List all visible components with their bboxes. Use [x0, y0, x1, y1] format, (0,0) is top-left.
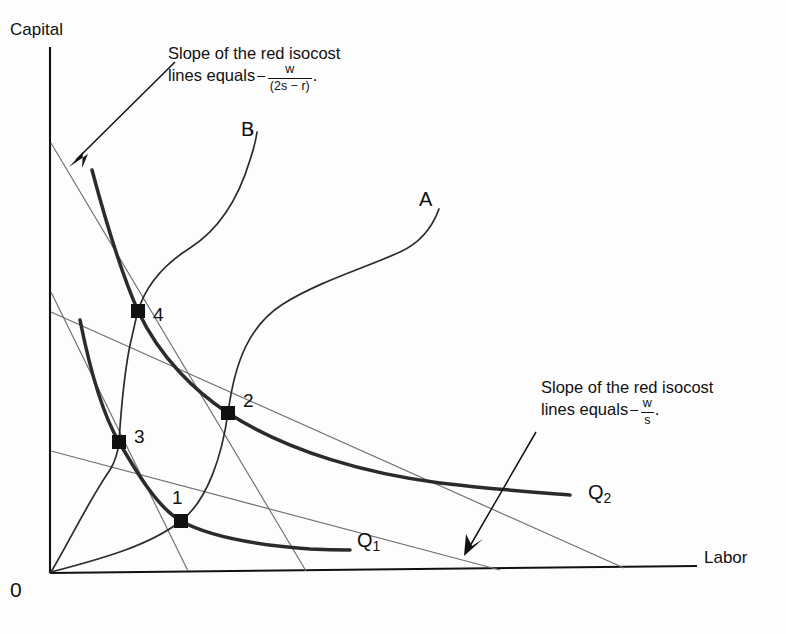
- point-marker-4: [131, 304, 145, 318]
- annotation-flat-line2-prefix: lines equals: [541, 401, 628, 419]
- annotation-flat-numerator: w: [641, 397, 654, 412]
- isoquant-q2-label: Q2: [588, 481, 611, 506]
- annotation-flat-leader: [464, 432, 536, 556]
- expansion-path-b-label: B: [241, 118, 254, 142]
- annotation-steep-arrowhead: [69, 152, 88, 168]
- annotation-flat-arrowhead: [464, 534, 483, 556]
- point-marker-3: [112, 435, 126, 449]
- expansion-path-a-label: A: [419, 188, 432, 212]
- annotation-flat-denominator: s: [641, 413, 654, 427]
- annotation-steep-leader-line: [76, 62, 175, 160]
- annotation-steep-numerator: w: [268, 63, 312, 78]
- annotation-steep-line2-prefix: lines equals: [168, 67, 255, 85]
- origin-label: 0: [10, 578, 22, 603]
- x-axis: [50, 566, 697, 573]
- annotation-steep-fraction: w(2s − r): [268, 63, 312, 92]
- annotation-steep-line2: lines equals−w(2s − r).: [168, 63, 340, 92]
- point-label-1: 1: [172, 487, 183, 509]
- point-marker-1: [174, 514, 188, 528]
- annotation-steep-isocost: Slope of the red isocost lines equals−w(…: [168, 44, 340, 93]
- annotation-flat-line1: Slope of the red isocost: [541, 378, 713, 397]
- annotation-flat-minus: −: [628, 401, 640, 419]
- isoquant-isocost-diagram: Capital Labor 0 B A Q1 Q2 4 2 3 1 Slope …: [0, 0, 786, 634]
- annotation-steep-minus: −: [255, 67, 267, 85]
- isoquant-q2-label-sub: 2: [604, 490, 612, 506]
- point-marker-2: [221, 406, 235, 420]
- y-axis-label: Capital: [10, 20, 63, 40]
- annotation-flat-trailing: .: [655, 401, 660, 419]
- point-label-4: 4: [153, 304, 164, 326]
- annotation-flat-line2: lines equals−ws.: [541, 397, 713, 426]
- isocost-lines-group: [51, 143, 624, 571]
- isoquant-q1-label-text: Q: [357, 529, 373, 551]
- annotation-steep-denominator: (2s − r): [268, 79, 312, 93]
- annotation-steep-trailing: .: [313, 67, 318, 85]
- expansion-path-b: [51, 132, 257, 572]
- annotation-flat-fraction: ws: [641, 397, 654, 426]
- isoquant-q2-label-text: Q: [588, 481, 604, 503]
- point-label-3: 3: [134, 426, 145, 448]
- isoquant-q1-label-sub: 1: [373, 538, 381, 554]
- annotation-flat-isocost: Slope of the red isocost lines equals−ws…: [541, 378, 713, 427]
- annotation-steep-line1: Slope of the red isocost: [168, 44, 340, 63]
- diagram-canvas: [0, 0, 786, 634]
- x-axis-label: Labor: [704, 548, 747, 568]
- isoquant-q1-label: Q1: [357, 529, 380, 554]
- point-label-2: 2: [243, 390, 254, 412]
- annotation-steep-leader: [69, 62, 175, 168]
